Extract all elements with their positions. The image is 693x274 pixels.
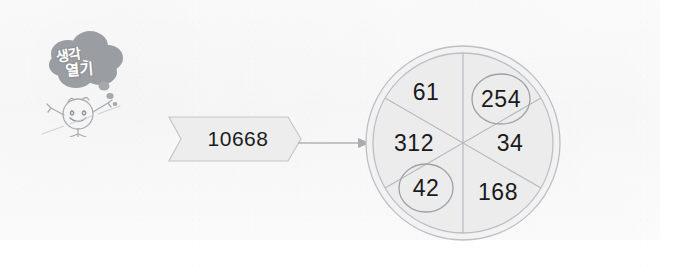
sector-wheel: 61 254 34 168 42 312 <box>362 42 564 244</box>
arrow-right-icon <box>298 128 372 158</box>
wheel-shape <box>362 42 564 244</box>
banner-shape <box>168 116 302 162</box>
thought-bubble-character-icon <box>38 22 134 137</box>
number-banner: 10668 <box>168 116 302 162</box>
worksheet-page: 생각 열기 10668 61 254 34 <box>0 0 693 274</box>
mascot-illustration: 생각 열기 <box>38 22 134 137</box>
